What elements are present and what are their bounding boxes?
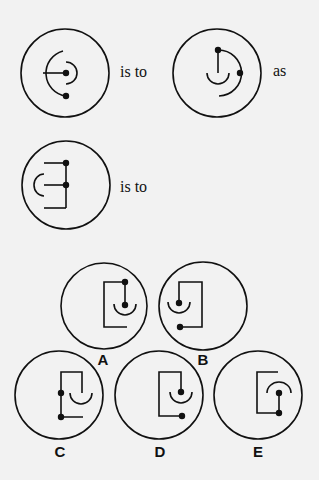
option-a-label[interactable]: A [98,352,109,367]
option-b-label[interactable]: B [198,352,209,367]
option-d-figure[interactable] [115,351,203,439]
option-d-label[interactable]: D [155,444,166,459]
figure-1 [21,29,109,117]
connector-is-to-2: is to [120,179,147,195]
option-c-label[interactable]: C [55,444,66,459]
option-e-figure[interactable] [214,351,302,439]
figure-2 [173,29,261,117]
analogy-puzzle-canvas [0,0,319,480]
option-a-figure[interactable] [61,263,147,349]
figure-3 [22,141,110,229]
option-e-label[interactable]: E [253,444,263,459]
connector-is-to-1: is to [120,64,147,80]
connector-as: as [273,63,286,79]
option-c-figure[interactable] [15,351,103,439]
option-b-figure[interactable] [159,262,247,350]
